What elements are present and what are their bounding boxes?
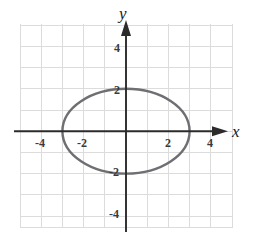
x-tick-label-pos4: 4 bbox=[207, 137, 213, 149]
y-tick-label-pos2: 2 bbox=[114, 84, 120, 96]
x-tick-label-neg2: -2 bbox=[77, 137, 87, 149]
coordinate-plane bbox=[0, 0, 255, 238]
y-tick-label-neg2: -2 bbox=[109, 166, 119, 178]
y-tick-label-neg4: -4 bbox=[109, 208, 119, 220]
y-axis-label: y bbox=[119, 5, 127, 22]
x-axis-label: x bbox=[232, 123, 240, 140]
axes bbox=[14, 30, 218, 232]
x-tick-label-neg4: -4 bbox=[35, 137, 45, 149]
graph-figure: -4 -2 2 4 4 2 -2 -4 x y bbox=[0, 0, 255, 238]
y-tick-label-pos4: 4 bbox=[114, 42, 120, 54]
x-tick-label-pos2: 2 bbox=[165, 137, 171, 149]
x-axis-arrowhead bbox=[212, 126, 228, 136]
